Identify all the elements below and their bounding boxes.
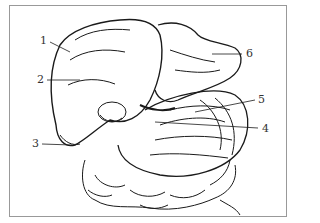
liver-right-lobe-drawing xyxy=(51,20,162,146)
label-3: 3 xyxy=(32,138,39,149)
liver-left-lobe-drawing xyxy=(155,23,241,101)
gallbladder-drawing xyxy=(98,102,126,122)
label-2: 2 xyxy=(37,74,44,85)
label-4: 4 xyxy=(262,123,269,134)
label-1: 1 xyxy=(40,35,47,46)
label-6: 6 xyxy=(246,48,253,59)
stomach-drawing xyxy=(118,91,248,176)
label-5: 5 xyxy=(258,94,265,105)
